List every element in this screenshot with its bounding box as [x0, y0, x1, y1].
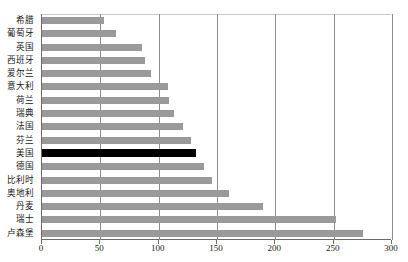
bar-row — [42, 27, 392, 40]
x-tick-label-150: 150 — [196, 243, 236, 253]
bar-row — [42, 107, 392, 120]
gridline-300 — [392, 14, 393, 240]
bar-卢森堡 — [42, 230, 363, 237]
bar-荷兰 — [42, 97, 169, 104]
y-axis-label-瑞士: 瑞士 — [0, 213, 34, 226]
bar-葡萄牙 — [42, 30, 116, 37]
x-tick-label-200: 200 — [254, 243, 294, 253]
y-axis-label-意大利: 意大利 — [0, 80, 34, 93]
bar-row — [42, 134, 392, 147]
y-axis-label-希腊: 希腊 — [0, 14, 34, 27]
bar-row — [42, 120, 392, 133]
bar-英国 — [42, 44, 142, 51]
bar-爱尔兰 — [42, 70, 151, 77]
bar-row — [42, 200, 392, 213]
bar-row — [42, 227, 392, 240]
y-axis-label-葡萄牙: 葡萄牙 — [0, 27, 34, 40]
bar-row — [42, 94, 392, 107]
bar-row — [42, 187, 392, 200]
bar-row — [42, 80, 392, 93]
bar-row — [42, 67, 392, 80]
y-axis-label-德国: 德国 — [0, 160, 34, 173]
y-axis-label-美国: 美国 — [0, 147, 34, 160]
bar-美国 — [42, 149, 196, 157]
y-axis-label-瑞典: 瑞典 — [0, 107, 34, 120]
bar-row — [42, 41, 392, 54]
bar-row — [42, 174, 392, 187]
y-axis-label-丹麦: 丹麦 — [0, 200, 34, 213]
y-axis-label-芬兰: 芬兰 — [0, 134, 34, 147]
y-axis-label-爱尔兰: 爱尔兰 — [0, 67, 34, 80]
bar-德国 — [42, 163, 204, 170]
bar-瑞士 — [42, 216, 336, 223]
y-axis-label-奥地利: 奥地利 — [0, 187, 34, 200]
y-axis-label-西班牙: 西班牙 — [0, 54, 34, 67]
bar-芬兰 — [42, 137, 191, 144]
y-axis-label-英国: 英国 — [0, 41, 34, 54]
y-axis-label-卢森堡: 卢森堡 — [0, 227, 34, 240]
bar-row — [42, 147, 392, 160]
chart-title — [0, 0, 408, 3]
y-axis-label-荷兰: 荷兰 — [0, 94, 34, 107]
bar-丹麦 — [42, 203, 263, 210]
bar-西班牙 — [42, 57, 145, 64]
bar-row — [42, 54, 392, 67]
bar-比利时 — [42, 177, 212, 184]
bar-row — [42, 213, 392, 226]
x-tick-label-300: 300 — [371, 243, 408, 253]
x-tick-label-100: 100 — [138, 243, 178, 253]
bar-chart: 希腊葡萄牙英国西班牙爱尔兰意大利荷兰瑞典法国芬兰美国德国比利时奥地利丹麦瑞士卢森… — [0, 0, 408, 262]
x-tick-label-250: 250 — [313, 243, 353, 253]
y-axis-label-法国: 法国 — [0, 120, 34, 133]
bar-希腊 — [42, 17, 104, 24]
plot-area — [41, 14, 391, 240]
bar-法国 — [42, 123, 183, 130]
bar-row — [42, 14, 392, 27]
bar-row — [42, 160, 392, 173]
bar-奥地利 — [42, 190, 229, 197]
y-axis-label-比利时: 比利时 — [0, 174, 34, 187]
x-tick-label-0: 0 — [21, 243, 61, 253]
bar-意大利 — [42, 83, 168, 90]
x-tick-label-50: 50 — [79, 243, 119, 253]
bar-瑞典 — [42, 110, 174, 117]
